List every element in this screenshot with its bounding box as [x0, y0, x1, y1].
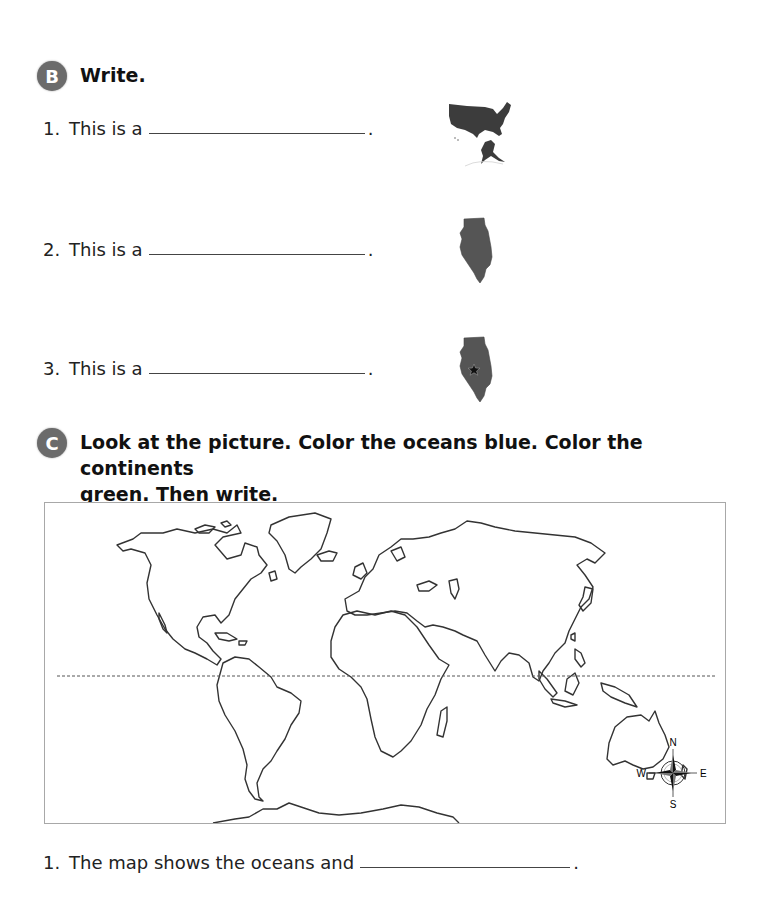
compass-east-label: E: [700, 768, 707, 779]
question-end: .: [368, 358, 374, 379]
compass-south-label: S: [670, 799, 677, 810]
question-end: .: [368, 118, 374, 139]
continent-antarctica: [213, 803, 459, 823]
continent-north-america: [117, 525, 267, 665]
island-tasmania: [647, 773, 655, 779]
section-b-badge: B: [37, 61, 67, 91]
island-newfoundland: [269, 571, 277, 581]
question-c1: 1. The map shows the oceans and .: [43, 852, 579, 873]
section-c-letter: C: [45, 433, 58, 454]
island-philippines: [575, 649, 585, 667]
island-java: [551, 699, 577, 707]
continent-greenland: [269, 513, 331, 573]
question-prompt: This is a: [69, 358, 143, 379]
question-b3: 3. This is a .: [43, 358, 373, 379]
continent-australia: [607, 711, 669, 769]
question-b1: 1. This is a .: [43, 118, 373, 139]
island-japan: [579, 587, 593, 611]
question-number: 3.: [43, 358, 69, 379]
question-number: 1.: [43, 852, 69, 873]
island-scandinavia-detail: [391, 547, 405, 561]
island-arctic-2: [221, 521, 231, 527]
sea-black: [417, 581, 437, 591]
continent-south-america: [217, 657, 301, 801]
section-c-badge: C: [37, 428, 67, 458]
question-b2: 2. This is a .: [43, 239, 373, 260]
lake-caspian: [449, 579, 459, 599]
illinois-map-picture: [458, 217, 498, 285]
answer-blank[interactable]: [149, 254, 365, 255]
island-hispaniola: [239, 641, 247, 645]
question-number: 1.: [43, 118, 69, 139]
question-prompt: This is a: [69, 118, 143, 139]
section-c-instruction: Look at the picture. Color the oceans bl…: [80, 429, 740, 507]
compass-north-label: N: [669, 737, 676, 748]
section-b-instruction: Write.: [80, 62, 146, 88]
island-new-guinea: [601, 683, 637, 707]
continent-eurasia: [345, 521, 605, 681]
island-taiwan: [571, 633, 575, 641]
continent-africa: [331, 611, 449, 757]
answer-blank[interactable]: [149, 133, 365, 134]
question-prompt: This is a: [69, 239, 143, 260]
island-madagascar: [437, 707, 447, 737]
island-cuba: [215, 633, 237, 641]
section-b-letter: B: [45, 66, 59, 87]
island-baja: [159, 613, 167, 633]
compass-west-label: W: [637, 768, 647, 779]
island-iceland: [317, 551, 337, 561]
illinois-capital-map-picture: [458, 336, 498, 404]
usa-map-picture: [445, 100, 520, 170]
question-number: 2.: [43, 239, 69, 260]
instruction-line-1: Look at the picture. Color the oceans bl…: [80, 429, 740, 481]
world-map[interactable]: N S E W: [44, 502, 726, 824]
answer-blank[interactable]: [360, 867, 570, 868]
question-end: .: [573, 852, 579, 873]
question-end: .: [368, 239, 374, 260]
answer-blank[interactable]: [149, 373, 365, 374]
question-prompt: The map shows the oceans and: [69, 852, 354, 873]
